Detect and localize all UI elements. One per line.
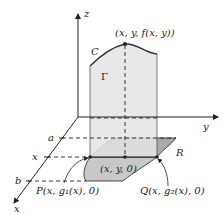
point-p-dot — [88, 155, 92, 159]
tick-label-b: b — [15, 175, 21, 186]
point-q-label: Q(x, g₂(x), 0) — [140, 185, 205, 196]
arrow-to-q — [158, 159, 168, 186]
z-axis-label: z — [83, 8, 90, 19]
tick-label-a: a — [48, 132, 54, 143]
tick-label-x: x — [32, 151, 38, 162]
curve-c-label: C — [91, 46, 99, 57]
base-point-label: (x, y, 0) — [100, 163, 137, 174]
gamma-label: Γ — [101, 71, 108, 82]
y-axis-label: y — [202, 121, 209, 132]
region-r-label: R — [175, 147, 184, 158]
surface-point-label: (x, y, f(x, y)) — [115, 27, 175, 38]
point-p-label: P(x, g₁(x), 0) — [35, 185, 99, 196]
diagram-canvas: z y x a x b (x, y, f(x, y)) C Γ R (x, y,… — [0, 0, 224, 214]
surface-point-dot — [123, 42, 127, 46]
cross-section-wall — [90, 44, 157, 157]
point-q-dot — [155, 155, 159, 159]
base-point-dot — [123, 155, 127, 159]
x-axis-label: x — [14, 203, 20, 214]
